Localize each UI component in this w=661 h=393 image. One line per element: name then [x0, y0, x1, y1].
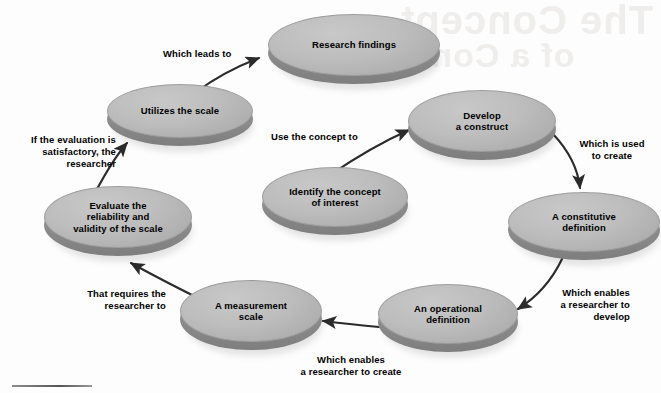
disc-top: Utilizes the scale	[107, 84, 253, 138]
node-label: Identify the concept of interest	[283, 186, 387, 209]
node-label: Utilizes the scale	[135, 105, 225, 117]
disc-top: Develop a construct	[408, 90, 556, 152]
connector-label-use-the-concept-to: Use the concept to	[271, 131, 391, 143]
connector-label-if-evaluation-satisfactory: If the evaluation is satisfactory, the r…	[4, 134, 116, 170]
node-evaluate-the-scale[interactable]: Evaluate the reliability and validity of…	[44, 186, 192, 248]
disc-top: Research findings	[268, 14, 440, 76]
node-an-operational-definition[interactable]: An operational definition	[378, 284, 518, 344]
disc-top: A constitutive definition	[508, 192, 660, 252]
connector-label-which-enables-create: Which enables a researcher to create	[285, 354, 417, 378]
node-label: Develop a construct	[450, 110, 514, 133]
diagram-canvas: The Concept of a Construct	[0, 0, 661, 393]
bottom-rule	[12, 385, 92, 387]
node-utilizes-the-scale[interactable]: Utilizes the scale	[107, 84, 253, 138]
disc-top: An operational definition	[378, 284, 518, 344]
node-a-constitutive-definition[interactable]: A constitutive definition	[508, 192, 660, 252]
connector-label-which-is-used-to-create: Which is used to create	[568, 138, 656, 162]
node-identify-the-concept[interactable]: Identify the concept of interest	[262, 167, 408, 227]
node-label: A measurement scale	[209, 300, 293, 323]
disc-top: Identify the concept of interest	[262, 167, 408, 227]
disc-top: Evaluate the reliability and validity of…	[44, 186, 192, 248]
node-label: Evaluate the reliability and validity of…	[67, 200, 169, 235]
connector-label-that-requires-researcher: That requires the researcher to	[58, 288, 166, 312]
node-label: A constitutive definition	[546, 211, 622, 234]
arrow-which-enables-create	[323, 321, 379, 327]
node-research-findings[interactable]: Research findings	[268, 14, 440, 76]
disc-top: A measurement scale	[180, 280, 322, 342]
node-develop-a-construct[interactable]: Develop a construct	[408, 90, 556, 152]
connector-label-which-leads-to: Which leads to	[163, 48, 263, 60]
connector-label-which-enables-develop: Which enables a researcher to develop	[516, 287, 630, 323]
node-label: Research findings	[306, 39, 402, 51]
node-label: An operational definition	[408, 303, 488, 326]
node-a-measurement-scale[interactable]: A measurement scale	[180, 280, 322, 342]
